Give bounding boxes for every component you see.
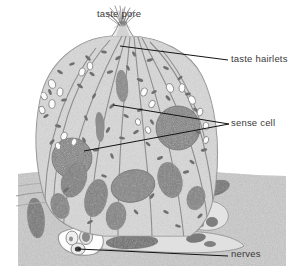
nucleus-sense-cell-right bbox=[156, 106, 200, 150]
taste-bud-illustration bbox=[0, 0, 302, 275]
taste-bud-figure bbox=[0, 0, 302, 275]
label-taste-hairlets: taste hairlets bbox=[231, 54, 288, 64]
taste-pore bbox=[112, 22, 133, 36]
label-sense-cell: sense cell bbox=[231, 118, 275, 128]
label-taste-pore: taste pore bbox=[97, 9, 141, 19]
label-nerves: nerves bbox=[231, 249, 261, 259]
